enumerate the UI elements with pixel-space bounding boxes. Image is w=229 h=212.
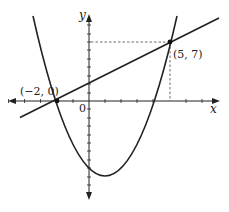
y-axis-up-arrow-icon [86,14,92,22]
point-5-7 [168,40,173,45]
y-axis-down-arrow-icon [86,192,92,200]
line-curve [20,18,219,118]
point-neg2-0 [55,99,60,104]
point-label-neg2-0: (−2, 0) [20,85,59,98]
origin-label: 0 [79,102,86,115]
guide-lines [91,42,170,101]
y-axis-label: y [78,8,86,22]
x-axis-left-arrow-icon [8,98,16,104]
point-label-5-7: (5, 7) [173,48,203,61]
x-axis-label: x [210,102,217,116]
x-axis [8,98,220,104]
coordinate-plane: (−2, 0) (5, 7) 0 x y [0,0,229,212]
